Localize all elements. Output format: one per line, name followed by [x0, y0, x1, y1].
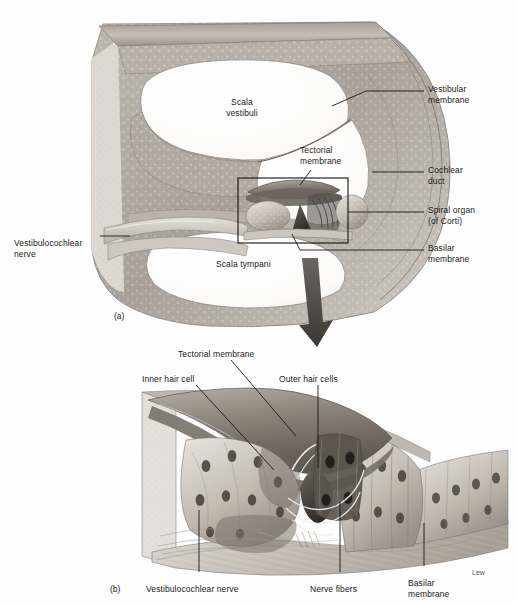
figure-canvas: Scala vestibuli Scala tympani Tectorial … — [0, 0, 518, 606]
artist-signature: Lew — [472, 569, 485, 576]
label-outer-hair-cells: Outer hair cells — [279, 374, 338, 385]
label-basilar-membrane-b: Basilar membrane — [408, 578, 449, 599]
panel-b-tag: (b) — [110, 584, 120, 594]
panel-a-tag: (a) — [114, 311, 124, 321]
label-cochlear-duct: Cochlear duct — [428, 165, 463, 186]
label-scala-tympani: Scala tympani — [216, 259, 271, 270]
label-basilar-membrane-a: Basilar membrane — [428, 243, 469, 264]
label-spiral-organ: Spiral organ (of Corti) — [428, 205, 475, 226]
label-scala-vestibuli: Scala vestibuli — [207, 97, 277, 118]
panel-a-illustration — [92, 22, 450, 347]
label-vestibular-membrane: Vestibular membrane — [428, 84, 469, 105]
panel-b-illustration — [142, 388, 508, 575]
label-inner-hair-cell: Inner hair cell — [142, 374, 195, 385]
label-tectorial-membrane-b: Tectorial membrane — [178, 349, 254, 360]
label-tectorial-membrane-a: Tectorial membrane — [300, 145, 341, 166]
label-vestibulocochlear-nerve-b: Vestibulocochlear nerve — [146, 584, 239, 595]
label-nerve-fibers: Nerve fibers — [310, 584, 357, 595]
label-vestibulocochlear-nerve-a: Vestibulocochlear nerve — [14, 238, 82, 259]
